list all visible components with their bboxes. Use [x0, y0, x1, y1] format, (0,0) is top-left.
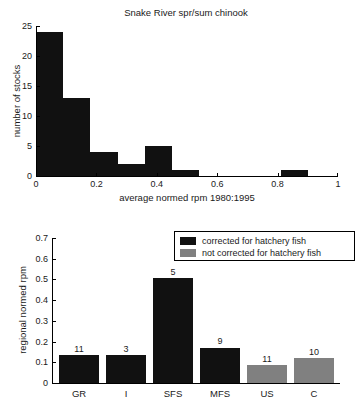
histogram-bar	[145, 146, 172, 176]
histogram-y-tick-label: 20	[15, 52, 32, 61]
regional-category-label: C	[311, 389, 318, 399]
regional-category-label: MFS	[210, 389, 230, 399]
regional-panel: 0 0.1 0.2 0.3 0.4 0.5 0.6 0.7 11 3 5 9 1…	[0, 205, 362, 411]
regional-y-tick	[53, 362, 56, 363]
regional-y-axis-title: regional normed rpm	[18, 266, 28, 354]
regional-y-tick	[53, 279, 56, 280]
regional-x-axis	[52, 383, 340, 384]
regional-bar-count-label: 10	[309, 348, 319, 357]
histogram-x-tick-label: 1	[335, 180, 340, 189]
regional-legend: corrected for hatchery fish not correcte…	[174, 231, 355, 261]
regional-bar-count-label: 9	[217, 337, 222, 346]
regional-bar-count-label: 3	[123, 345, 128, 354]
histogram-y-tick	[37, 146, 40, 147]
histogram-bar	[63, 98, 90, 176]
histogram-x-axis	[36, 176, 338, 177]
histogram-title: Snake River spr/sum chinook	[124, 8, 248, 18]
regional-bar-count-label: 11	[262, 355, 271, 364]
regional-y-tick	[53, 259, 56, 260]
histogram-x-tick-label: 0.6	[211, 180, 224, 189]
histogram-y-tick	[37, 86, 40, 87]
regional-y-tick-label: 0.2	[26, 337, 48, 346]
regional-bar	[153, 278, 193, 383]
regional-y-tick-label: 0.5	[26, 275, 48, 284]
regional-category-label: GR	[72, 389, 86, 399]
figure-root: Snake River spr/sum chinook	[0, 0, 362, 411]
legend-label-not-corrected: not corrected for hatchery fish	[202, 249, 321, 258]
legend-swatch-corrected-icon	[180, 237, 196, 245]
regional-y-tick	[53, 321, 56, 322]
histogram-y-tick	[37, 56, 40, 57]
regional-bar	[294, 358, 334, 383]
histogram-bar	[118, 164, 145, 176]
histogram-y-tick	[37, 116, 40, 117]
histogram-x-tick-label: 0.8	[271, 180, 284, 189]
regional-bar	[59, 355, 99, 383]
histogram-x-tick	[337, 173, 338, 176]
legend-label-corrected: corrected for hatchery fish	[202, 237, 306, 246]
regional-bar	[106, 355, 146, 383]
histogram-y-tick	[37, 176, 40, 177]
regional-y-tick	[53, 300, 56, 301]
regional-y-axis	[52, 238, 53, 383]
regional-y-tick	[53, 383, 56, 384]
regional-bar-count-label: 5	[170, 268, 175, 277]
histogram-x-tick	[96, 173, 97, 176]
histogram-bar	[36, 32, 63, 176]
regional-y-tick-label: 0.4	[26, 296, 48, 305]
regional-y-tick-label: 0.7	[26, 234, 48, 243]
histogram-y-tick-label: 5	[20, 142, 32, 151]
regional-y-tick-label: 0.1	[26, 358, 48, 367]
regional-category-label: US	[260, 389, 273, 399]
regional-y-tick-label: 0.6	[26, 254, 48, 263]
histogram-x-tick-label: 0	[33, 180, 38, 189]
histogram-y-axis	[36, 26, 37, 176]
legend-item-corrected: corrected for hatchery fish	[180, 235, 349, 247]
histogram-y-axis-title: number of stocks	[12, 65, 22, 137]
histogram-y-tick	[37, 26, 40, 27]
histogram-x-tick-label: 0.4	[151, 180, 164, 189]
regional-category-label: SFS	[164, 389, 182, 399]
regional-y-tick-label: 0	[34, 379, 48, 388]
legend-item-not-corrected: not corrected for hatchery fish	[180, 247, 349, 259]
regional-y-tick	[53, 238, 56, 239]
regional-category-label: I	[125, 389, 128, 399]
regional-y-tick	[53, 342, 56, 343]
regional-bar	[247, 365, 287, 383]
histogram-plot-area	[36, 26, 338, 176]
histogram-x-tick	[217, 173, 218, 176]
regional-y-tick-label: 0.3	[26, 316, 48, 325]
histogram-x-axis-title: average normed rpm 1980:1995	[119, 193, 255, 203]
histogram-y-tick-label: 25	[15, 22, 32, 31]
regional-bar-count-label: 11	[74, 345, 83, 354]
histogram-x-tick	[36, 173, 37, 176]
regional-bar	[200, 348, 240, 383]
histogram-x-tick-label: 0.2	[90, 180, 103, 189]
legend-swatch-not-corrected-icon	[180, 249, 196, 257]
histogram-y-tick-label: 0	[20, 172, 32, 181]
histogram-x-tick	[157, 173, 158, 176]
histogram-bar	[90, 152, 117, 176]
histogram-panel: Snake River spr/sum chinook	[0, 0, 362, 205]
histogram-x-tick	[278, 173, 279, 176]
